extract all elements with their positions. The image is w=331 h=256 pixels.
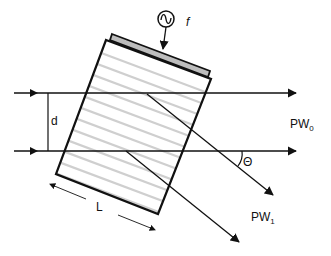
zero-order-label: PW0 <box>290 117 314 133</box>
input-arrow-lower <box>30 147 38 155</box>
length-label: L <box>96 200 103 214</box>
length-arrow-right <box>118 215 153 229</box>
diffracted-beam-lower <box>126 151 239 242</box>
aom-diagram: f d Θ PW0 PW1 L <box>0 0 331 256</box>
length-arrow-left <box>52 185 86 199</box>
frequency-label: f <box>186 15 191 29</box>
acoustic-wavefronts <box>0 30 240 237</box>
angle-label: Θ <box>243 155 252 169</box>
transducer <box>110 34 210 77</box>
angle-arc <box>238 151 242 166</box>
separation-label: d <box>51 114 58 128</box>
input-arrow-upper <box>30 89 38 97</box>
diffracted-beam-upper <box>147 94 273 195</box>
first-order-label: PW1 <box>251 210 275 226</box>
sine-wave-source-icon <box>158 11 174 49</box>
